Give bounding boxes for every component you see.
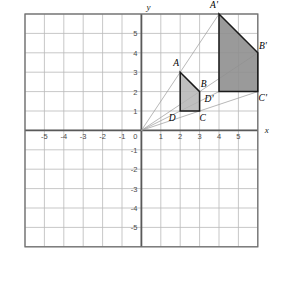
y-tick-label: 1 — [133, 107, 137, 116]
vertex-label-D: D — [168, 113, 176, 123]
coordinate-grid-svg: -5-4-3-2-11234554321-1-2-3-4-50 ABCDA'B'… — [0, 0, 281, 289]
y-tick-label: 2 — [133, 88, 137, 97]
vertex-label-A: A — [172, 58, 179, 68]
y-tick-label: -5 — [131, 223, 138, 232]
y-tick-label: -3 — [131, 185, 138, 194]
vertex-label-B: B — [201, 79, 207, 89]
x-tick-label: -5 — [41, 132, 48, 141]
x-tick-label: -1 — [119, 132, 126, 141]
y-axis-label: y — [145, 2, 150, 12]
x-tick-label: 4 — [217, 132, 221, 141]
origin-label: 0 — [133, 132, 137, 141]
x-tick-label: -4 — [60, 132, 67, 141]
x-axis-label: x — [264, 125, 269, 135]
vertex-label-D-prime: D' — [204, 94, 215, 104]
x-tick-label: 1 — [159, 132, 163, 141]
vertex-label-C: C — [199, 113, 206, 123]
x-tick-label: -3 — [80, 132, 87, 141]
vertex-label-B-prime: B' — [259, 41, 268, 51]
y-tick-label: -4 — [131, 204, 138, 213]
y-tick-label: 4 — [133, 49, 137, 58]
vertex-label-A-prime: A' — [209, 0, 219, 10]
y-tick-label: 5 — [133, 29, 137, 38]
y-tick-label: 3 — [133, 68, 137, 77]
y-tick-label: -2 — [131, 165, 138, 174]
coordinate-plane-figure: -5-4-3-2-11234554321-1-2-3-4-50 ABCDA'B'… — [0, 0, 281, 289]
vertex-label-C-prime: C' — [259, 93, 268, 103]
x-tick-label: 2 — [178, 132, 182, 141]
x-tick-label: 5 — [236, 132, 240, 141]
x-tick-label: 3 — [198, 132, 202, 141]
y-tick-label: -1 — [131, 146, 138, 155]
x-tick-label: -2 — [99, 132, 106, 141]
